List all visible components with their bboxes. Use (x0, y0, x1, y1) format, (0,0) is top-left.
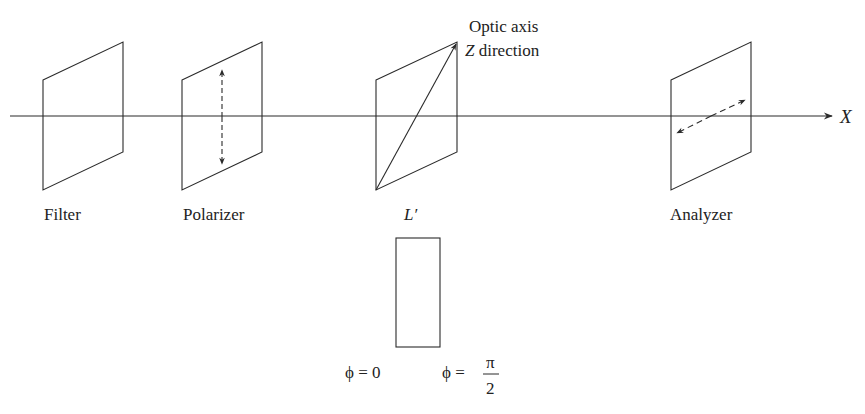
two-denominator: 2 (486, 379, 495, 398)
analyzer-arrow-right-icon (711, 100, 745, 116)
optic-axis-label: Optic axis (469, 17, 538, 36)
phi-zero-label: ϕ = 0 (345, 363, 381, 382)
analyzer-label: Analyzer (670, 205, 733, 224)
z-direction-label: Z direction (465, 41, 540, 60)
diagram-canvas: X Filter Polarizer L′ Optic axis Z direc… (0, 0, 865, 414)
phase-box: ϕ = 0 ϕ = π 2 (345, 238, 499, 398)
polarizer-plate: Polarizer (182, 42, 262, 224)
filter-plate: Filter (43, 42, 123, 224)
polarizer-label: Polarizer (183, 205, 245, 224)
x-axis-label: X (839, 106, 853, 127)
phi-half-pi-prefix: ϕ = (442, 363, 465, 382)
retarder-label: L′ (403, 205, 417, 224)
x-axis: X (10, 106, 853, 127)
retarder-plate: L′ Optic axis Z direction (376, 17, 540, 224)
pi-numerator: π (486, 353, 495, 372)
filter-label: Filter (44, 205, 81, 224)
optic-axis-arrow-icon (376, 44, 456, 190)
optics-diagram: X Filter Polarizer L′ Optic axis Z direc… (0, 0, 865, 414)
analyzer-arrow-left-icon (677, 116, 711, 133)
analyzer-plate: Analyzer (670, 42, 751, 224)
